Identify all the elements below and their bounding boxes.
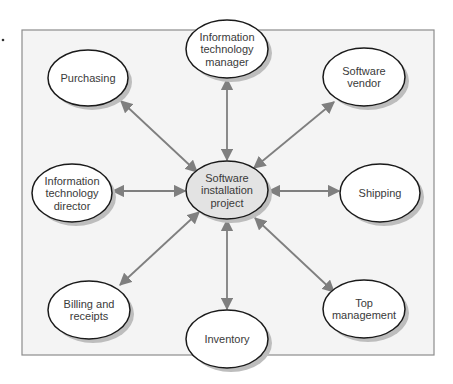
node-label-line: manager <box>205 56 249 68</box>
node-label-line: Purchasing <box>60 72 115 84</box>
node-label-line: director <box>54 200 91 212</box>
node-label-line: Software <box>205 172 248 184</box>
node-label-line: Information <box>199 31 254 43</box>
node-label-line: management <box>332 309 396 321</box>
node-label-line: Inventory <box>204 333 250 345</box>
node-label-line: project <box>210 197 243 209</box>
nodes-layer: InformationtechnologymanagerPurchasingSo… <box>32 20 424 372</box>
diagram-canvas: InformationtechnologymanagerPurchasingSo… <box>0 0 453 384</box>
stakeholder-diagram: InformationtechnologymanagerPurchasingSo… <box>0 0 453 384</box>
node-label-line: Software <box>342 65 385 77</box>
node-label-line: Shipping <box>359 187 402 199</box>
node-label-line: technology <box>200 43 254 55</box>
node-label-line: Top <box>355 297 373 309</box>
node-label-line: Information <box>44 175 99 187</box>
node-label-line: technology <box>45 187 99 199</box>
node-label-line: vendor <box>347 77 381 89</box>
node-label-line: receipts <box>70 310 109 322</box>
node-label-line: installation <box>201 184 253 196</box>
node-label-line: Billing and <box>64 298 115 310</box>
margin-dot <box>2 39 5 42</box>
